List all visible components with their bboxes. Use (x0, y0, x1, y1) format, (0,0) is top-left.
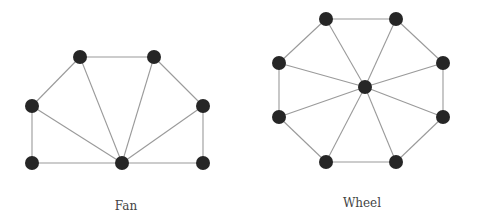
fan-edge (32, 106, 122, 163)
wheel-node (358, 80, 372, 94)
graph-figure: Fan Wheel (0, 0, 477, 224)
wheel-edge (365, 87, 396, 162)
wheel-edge (279, 63, 365, 87)
fan-edge (122, 106, 203, 163)
wheel-edge (279, 117, 326, 162)
fan-edge (32, 57, 80, 106)
wheel-graph (272, 12, 450, 169)
fan-node (25, 99, 39, 113)
wheel-edge (326, 19, 365, 87)
fan-node (147, 50, 161, 64)
wheel-edge (365, 87, 443, 117)
wheel-node (389, 155, 403, 169)
fan-graph (25, 50, 210, 170)
wheel-node (272, 110, 286, 124)
wheel-node (436, 56, 450, 70)
fan-node (196, 156, 210, 170)
graph-canvas (0, 0, 477, 224)
wheel-node (389, 12, 403, 26)
wheel-edge (365, 63, 443, 87)
wheel-node (319, 155, 333, 169)
wheel-edge (396, 117, 443, 162)
wheel-edge (396, 19, 443, 63)
fan-node (25, 156, 39, 170)
fan-node (196, 99, 210, 113)
fan-node (73, 50, 87, 64)
wheel-node (272, 56, 286, 70)
fan-edge (80, 57, 122, 163)
fan-edge (154, 57, 203, 106)
wheel-node (436, 110, 450, 124)
fan-node (115, 156, 129, 170)
fan-label: Fan (115, 199, 137, 213)
wheel-edge (279, 19, 326, 63)
fan-edge (122, 57, 154, 163)
wheel-label: Wheel (343, 196, 381, 210)
wheel-node (319, 12, 333, 26)
wheel-edge (365, 19, 396, 87)
